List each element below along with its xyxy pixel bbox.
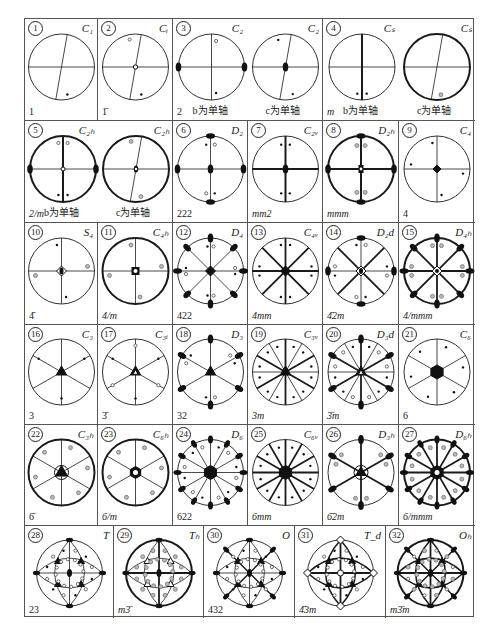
schoenflies-symbol: C₂ᵥ — [304, 124, 318, 136]
hermann-mauguin-symbol: 3m — [252, 410, 264, 421]
schoenflies-symbol: D₆ — [231, 428, 243, 440]
schoenflies-symbol: D₃ — [231, 328, 243, 340]
hermann-mauguin-symbol: m3̄m — [390, 604, 409, 615]
schoenflies-symbol: C₂ₕ — [79, 124, 94, 137]
point-group-cell-32: 32Oₕm3̄m — [386, 526, 475, 618]
hermann-mauguin-symbol: 2 — [177, 106, 182, 117]
group-index-badge: 29 — [117, 528, 132, 543]
group-index-badge: 2 — [101, 21, 116, 36]
schoenflies-symbol: D₃ₕ — [378, 428, 394, 441]
schoenflies-symbol: C₂ — [232, 22, 243, 34]
group-index-badge: 31 — [298, 528, 313, 543]
schoenflies-symbol: D₂ₕ — [378, 124, 394, 137]
group-index-badge: 23 — [101, 427, 116, 442]
point-group-cell-6: 6D₂222 — [173, 121, 248, 223]
hermann-mauguin-symbol: 32 — [177, 410, 187, 421]
hermann-mauguin-symbol: 4/mmm — [403, 310, 432, 321]
point-group-cell-7: 7C₂ᵥmm2 — [248, 121, 323, 223]
point-group-cell-27: 27D₆ₕ6/mmm — [399, 425, 475, 526]
group-index-badge: 5 — [28, 123, 43, 138]
hermann-mauguin-symbol: 6mm — [252, 511, 271, 522]
hermann-mauguin-symbol: m — [327, 106, 334, 117]
point-group-cell-19: 19C₃ᵥ3m — [248, 325, 323, 425]
group-index-badge: 19 — [251, 327, 266, 342]
hermann-mauguin-symbol: 6/mmm — [403, 511, 432, 522]
point-group-cell-5: 5C₂ₕC₂ₕ2/mb为单轴c为单轴 — [25, 121, 173, 223]
group-index-badge: 32 — [389, 528, 404, 543]
schoenflies-symbol: C₄ₕ — [153, 226, 168, 239]
point-group-cell-18: 18D₃32 — [173, 325, 248, 425]
schoenflies-symbol: C₃ᵥ — [304, 328, 318, 340]
point-group-cell-23: 23C₆ₕ6/m — [98, 425, 173, 526]
schoenflies-symbol: S₄ — [84, 226, 93, 238]
group-index-badge: 6 — [176, 123, 191, 138]
group-index-badge: 22 — [28, 427, 43, 442]
group-index-badge: 1 — [28, 21, 43, 36]
group-index-badge: 27 — [402, 427, 417, 442]
schoenflies-symbol: O — [282, 529, 290, 541]
point-group-cell-12: 12D₄422 — [173, 223, 248, 325]
point-group-cell-28: 28T23 — [25, 526, 114, 618]
point-group-cell-3: 3C₂C₂2b为单轴c为单轴 — [173, 19, 323, 121]
group-index-badge: 11 — [101, 225, 116, 240]
point-group-cell-8: 8D₂ₕmmm — [323, 121, 399, 223]
point-group-cell-15: 15D₄ₕ4/mmm — [399, 223, 475, 325]
hermann-mauguin-symbol: 422 — [177, 310, 192, 321]
group-index-badge: 14 — [326, 225, 341, 240]
point-group-cell-22: 22C₃ₕ6̄ — [25, 425, 98, 526]
schoenflies-symbol: C₆ₕ — [153, 428, 168, 441]
group-index-badge: 13 — [251, 225, 266, 240]
group-index-badge: 24 — [176, 427, 191, 442]
point-group-cell-13: 13C₄ᵥ4mm — [248, 223, 323, 325]
schoenflies-symbol: D₄ₕ — [455, 226, 471, 239]
point-group-grid: 1C₁12Cᵢ1̄3C₂C₂2b为单轴c为单轴4CₛCₛmb为单轴c为单轴5C₂… — [24, 18, 474, 617]
schoenflies-symbol: C₄ — [460, 124, 471, 136]
hermann-mauguin-symbol: 6 — [403, 410, 408, 421]
group-index-badge: 30 — [207, 528, 222, 543]
schoenflies-symbol: C₆ᵥ — [304, 428, 318, 440]
schoenflies-symbol: C₃ᵢ — [155, 328, 168, 340]
point-group-cell-26: 26D₃ₕ6̄2m — [323, 425, 399, 526]
group-index-badge: 16 — [28, 327, 43, 342]
hermann-mauguin-symbol: 4̄ — [29, 310, 34, 321]
schoenflies-symbol: Cᵢ — [159, 22, 168, 34]
c-axis-caption: c为单轴 — [417, 102, 451, 117]
group-index-badge: 25 — [251, 427, 266, 442]
point-group-cell-9: 9C₄4 — [399, 121, 475, 223]
hermann-mauguin-symbol: 6̄ — [29, 511, 34, 522]
hermann-mauguin-symbol: 222 — [177, 208, 192, 219]
hermann-mauguin-symbol: 432 — [208, 604, 223, 615]
point-group-cell-2: 2Cᵢ1̄ — [98, 19, 173, 121]
group-index-badge: 10 — [28, 225, 43, 240]
hermann-mauguin-symbol: mm2 — [252, 208, 271, 219]
schoenflies-symbol: C₂ₕ — [154, 124, 169, 137]
point-group-cell-1: 1C₁1 — [25, 19, 98, 121]
schoenflies-symbol: Cₛ — [384, 22, 395, 35]
schoenflies-symbol: D₆ₕ — [455, 428, 471, 441]
schoenflies-symbol: Oₕ — [459, 529, 471, 542]
hermann-mauguin-symbol: 4̄2m — [327, 310, 344, 321]
group-index-badge: 3 — [176, 21, 191, 36]
group-index-badge: 9 — [402, 123, 417, 138]
hermann-mauguin-symbol: 1 — [29, 106, 34, 117]
group-index-badge: 21 — [402, 327, 417, 342]
c-axis-caption: c为单轴 — [116, 204, 150, 219]
hermann-mauguin-symbol: 622 — [177, 511, 192, 522]
schoenflies-symbol: C₃ — [82, 328, 93, 340]
b-axis-caption: b为单轴 — [44, 204, 79, 219]
schoenflies-symbol: D₂ — [231, 124, 243, 136]
point-group-cell-31: 31T_d4̄3m — [295, 526, 386, 618]
point-group-cell-14: 14D₂d4̄2m — [323, 223, 399, 325]
hermann-mauguin-symbol: 3̄ — [102, 410, 107, 421]
schoenflies-symbol: C₂ — [308, 22, 319, 34]
group-index-badge: 15 — [402, 225, 417, 240]
point-group-cell-20: 20D₃d3̄m — [323, 325, 399, 425]
hermann-mauguin-symbol: 23 — [29, 604, 39, 615]
point-group-cell-24: 24D₆622 — [173, 425, 248, 526]
point-group-cell-21: 21C₆6 — [399, 325, 475, 425]
schoenflies-symbol: T_d — [364, 529, 381, 541]
hermann-mauguin-symbol: 4mm — [252, 310, 271, 321]
schoenflies-symbol: C₄ᵥ — [304, 226, 318, 238]
hermann-mauguin-symbol: 3̄m — [327, 410, 339, 421]
group-index-badge: 12 — [176, 225, 191, 240]
